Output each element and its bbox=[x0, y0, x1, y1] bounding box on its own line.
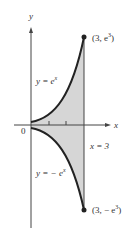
shaded-region bbox=[31, 37, 84, 210]
x-axis-arrow-icon bbox=[105, 123, 111, 127]
y-axis-label: y bbox=[28, 11, 33, 21]
y-axis-arrow-icon bbox=[29, 27, 33, 33]
top-point bbox=[82, 35, 87, 40]
vertical-line-label: x = 3 bbox=[89, 141, 110, 151]
x-axis-label: x bbox=[113, 120, 118, 130]
origin-label: 0 bbox=[21, 126, 26, 136]
bottom-point-label: (3, − e3) bbox=[92, 204, 121, 215]
bottom-point bbox=[82, 208, 87, 213]
region-diagram: y x 0 y = ex y = − ex x = 3 (3, e3) (3, … bbox=[0, 0, 131, 237]
upper-curve-label: y = ex bbox=[35, 75, 58, 86]
top-point-label: (3, e3) bbox=[92, 32, 114, 43]
lower-curve-label: y = − ex bbox=[35, 167, 66, 178]
